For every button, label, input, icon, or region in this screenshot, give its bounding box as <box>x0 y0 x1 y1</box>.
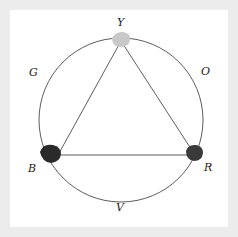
label-b: B <box>27 162 36 175</box>
label-g: G <box>29 66 38 79</box>
label-r: R <box>203 161 212 174</box>
label-o: O <box>201 65 210 78</box>
color-wheel-diagram: Y O R V B G <box>0 0 238 237</box>
label-v: V <box>116 201 125 214</box>
red-blob <box>186 145 203 161</box>
